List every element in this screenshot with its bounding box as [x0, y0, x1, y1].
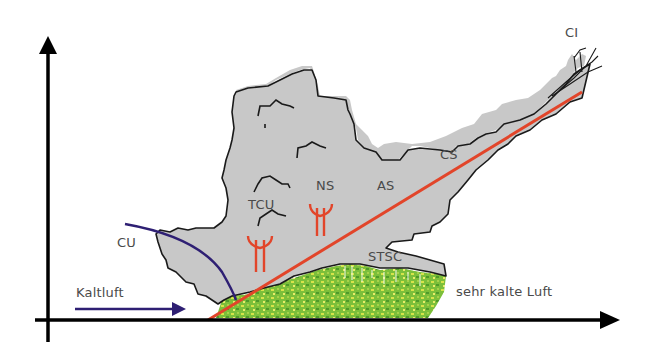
- label-ns: NS: [316, 179, 334, 192]
- y-axis: [39, 36, 57, 342]
- cloud-mass: [156, 48, 602, 304]
- label-cold-air: Kaltluft: [76, 286, 124, 299]
- cold-air-arrow: [75, 302, 186, 316]
- label-tcu: TCU: [248, 198, 274, 211]
- label-stsc: STSC: [368, 250, 402, 263]
- label-as: AS: [377, 179, 395, 192]
- label-ci: CI: [565, 26, 578, 39]
- label-cs: CS: [440, 148, 458, 161]
- label-cu: CU: [117, 236, 136, 249]
- label-very-cold-air: sehr kalte Luft: [456, 285, 552, 298]
